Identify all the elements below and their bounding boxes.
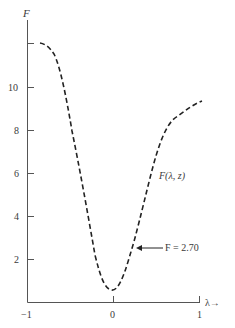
- curve-label-text: F(λ, z): [159, 170, 185, 181]
- x-axis-label: λ→: [205, 298, 220, 308]
- curve-f-lambda-z: [40, 43, 202, 290]
- y-tick-label-6: 6: [14, 169, 19, 179]
- y-axis-label: F: [23, 8, 30, 18]
- threshold-label: F = 2.70: [165, 243, 199, 253]
- y-tick-label-8: 8: [14, 126, 19, 136]
- y-tick-label-10: 10: [8, 83, 18, 93]
- x-tick-label-0: 0: [110, 310, 115, 320]
- y-tick-label-4: 4: [14, 212, 19, 222]
- x-tick-label-1: 1: [197, 310, 202, 320]
- curve-label: F(λ, z): [159, 171, 185, 181]
- chart-canvas: [0, 0, 235, 328]
- x-tick-label-neg1: −1: [21, 310, 32, 320]
- y-ticks: [28, 44, 35, 260]
- arrow-head-icon: [136, 245, 142, 251]
- x-ticks: [114, 296, 200, 303]
- y-tick-label-2: 2: [14, 255, 19, 265]
